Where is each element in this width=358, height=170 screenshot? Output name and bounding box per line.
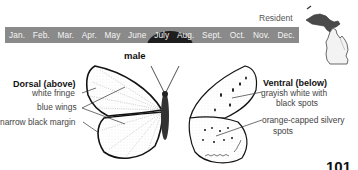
annotation-orange-capped-line2: spots (273, 126, 293, 136)
annotation-grayish-white-line2: black spots (276, 98, 318, 108)
resident-label: Resident (259, 13, 293, 23)
butterfly-illustration (0, 55, 358, 170)
annotation-blue-wings: blue wings (37, 102, 77, 112)
annotation-white-fringe: white fringe (32, 88, 75, 98)
ventral-title: Ventral (below) (263, 78, 327, 88)
month-labels: Jan. Feb. Mar. Apr. May June July Aug. S… (5, 27, 299, 43)
month-label: Oct. (230, 30, 246, 40)
month-label: Feb. (33, 30, 50, 40)
month-label: Nov. (253, 30, 270, 40)
annotation-orange-capped-line1: orange-capped silvery (262, 115, 344, 125)
month-label: Dec. (277, 30, 294, 40)
annotation-grayish-white-line1: grayish white with (261, 88, 327, 98)
month-label: Aug. (177, 30, 194, 40)
flight-month-bar: Jan. Feb. Mar. Apr. May June July Aug. S… (5, 27, 299, 43)
month-label: July (154, 30, 169, 40)
month-label: May (104, 30, 120, 40)
month-label: Sept. (202, 30, 222, 40)
month-label: Mar. (57, 30, 74, 40)
month-label: June (128, 30, 146, 40)
page-number: 101 (326, 158, 351, 170)
month-label: Apr. (82, 30, 97, 40)
annotation-narrow-black-margin: narrow black margin (0, 117, 75, 127)
month-label: Jan. (9, 30, 25, 40)
